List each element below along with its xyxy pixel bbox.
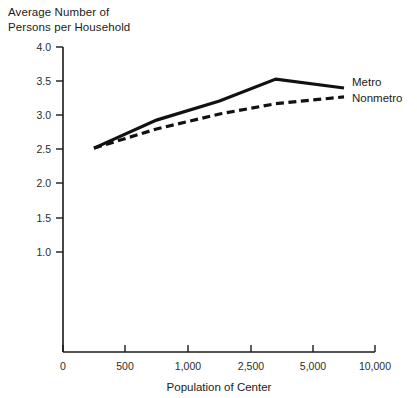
y-tick-label-4-0: 4.0 <box>36 41 51 53</box>
x-axis-title: Population of Center <box>167 381 272 393</box>
x-tick-label-500: 500 <box>116 360 134 372</box>
x-axis-ticks: 0 500 1,000 2,500 5,000 10,000 <box>60 345 391 372</box>
y-tick-label-3-0: 3.0 <box>36 109 51 121</box>
x-tick-label-10000: 10,000 <box>359 360 391 372</box>
y-axis-ticks: 4.0 3.5 3.0 2.5 2.0 1.5 1.0 <box>36 41 63 258</box>
x-tick-label-1000: 1,000 <box>175 360 201 372</box>
y-tick-label-3-5: 3.5 <box>36 75 51 87</box>
series-line-nonmetro <box>94 97 344 148</box>
y-tick-label-1-5: 1.5 <box>36 212 51 224</box>
chart-figure: Average Number ofPersons per Household 4… <box>0 0 417 398</box>
x-tick-label-5000: 5,000 <box>300 360 326 372</box>
x-tick-label-0: 0 <box>60 360 66 372</box>
y-tick-label-2-5: 2.5 <box>36 143 51 155</box>
y-tick-label-1-0: 1.0 <box>36 246 51 258</box>
plot-area: 4.0 3.5 3.0 2.5 2.0 1.5 1.0 0 500 1,000 … <box>0 0 417 398</box>
series-label-metro: Metro <box>352 76 381 88</box>
x-tick-label-2500: 2,500 <box>238 360 264 372</box>
series-label-nonmetro: Nonmetro <box>352 92 403 104</box>
y-tick-label-2-0: 2.0 <box>36 177 51 189</box>
